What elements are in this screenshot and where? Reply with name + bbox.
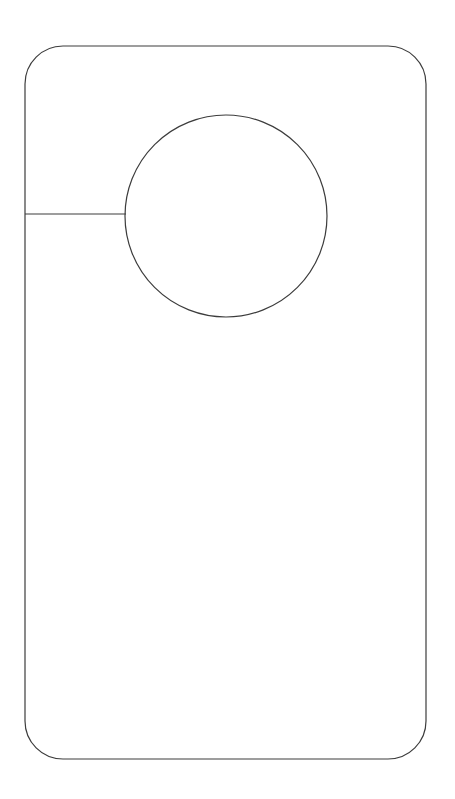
template-canvas: Door Hanger Template door-hanger-die-cut… [0,0,455,799]
door-hanger-template-drawing [0,0,455,799]
page-background [0,0,455,799]
